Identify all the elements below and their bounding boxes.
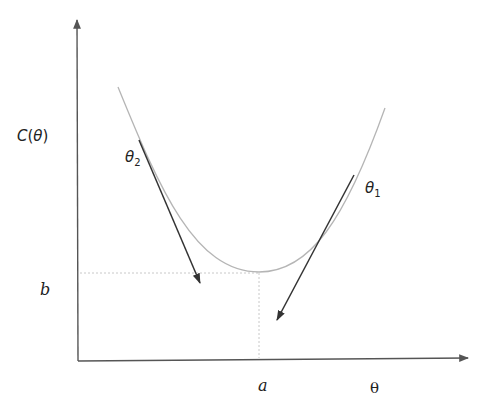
y-axis bbox=[77, 20, 78, 361]
theta2-arrow bbox=[139, 140, 200, 283]
x-axis-label: θ bbox=[370, 379, 379, 397]
cost-curve bbox=[118, 87, 385, 272]
y-axis-label: C(θ) bbox=[17, 127, 48, 145]
min-y-label: b bbox=[40, 280, 50, 299]
gradient-descent-diagram: C(θ) θ2 θ1 b a θ bbox=[0, 0, 484, 414]
theta2-label: θ2 bbox=[125, 148, 141, 168]
x-axis bbox=[78, 358, 468, 361]
theta1-arrow bbox=[277, 175, 354, 320]
theta1-label: θ1 bbox=[365, 179, 381, 199]
min-x-label: a bbox=[258, 376, 268, 395]
